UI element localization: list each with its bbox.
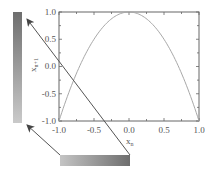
y-tick-labels: 1.0 0.5 0.0 -0.5 -1.0 (42, 7, 57, 126)
horizontal-gradient-bar (60, 155, 130, 166)
y-axis-label-sub: n+1 (33, 58, 39, 67)
x-axis-label: xn (126, 136, 134, 147)
x-tick-label: 0.5 (158, 125, 170, 135)
y-tick-label: 0.5 (45, 34, 57, 44)
arrow-right-to-top (27, 19, 130, 155)
x-tick-label: -0.5 (87, 125, 102, 135)
x-tick-labels: -1.0 -0.5 0.0 0.5 1.0 (52, 125, 205, 135)
y-tick-label: 1.0 (45, 7, 57, 17)
y-axis-label: xn+1 (28, 58, 39, 72)
x-tick-label: 1.0 (193, 125, 205, 135)
x-axis-label-sub: n (131, 141, 134, 147)
y-tick-label: -0.5 (42, 89, 57, 99)
vertical-gradient-bar (13, 12, 22, 123)
logistic-map-diagram: 1.0 0.5 0.0 -0.5 -1.0 -1.0 -0.5 0.0 0.5 … (0, 0, 217, 172)
x-tick-label: 0.0 (123, 125, 135, 135)
map-curve (59, 12, 199, 121)
y-tick-label: 0.0 (45, 61, 57, 71)
x-tick-label: -1.0 (52, 125, 67, 135)
plot-area (59, 12, 199, 121)
